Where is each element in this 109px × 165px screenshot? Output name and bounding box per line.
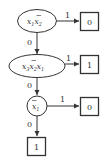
svg-text:x3x2x1: x3x2x1 (22, 62, 44, 72)
edge-label-n1-l1: 1 (65, 11, 70, 20)
bdd-diagram: 1 0 1 0 1 0 x1x2 x3x2x1 x1 0 1 (0, 0, 109, 165)
leaf-l4: 1 (28, 138, 46, 156)
leaf-l3: 0 (81, 98, 99, 116)
node-n1: x1x2 (18, 10, 57, 33)
edge-label-n2-n3: 0 (27, 81, 32, 90)
node-n2: x3x2x1 (9, 55, 65, 78)
edge-label-n3-l4: 0 (27, 120, 32, 129)
svg-text:1: 1 (34, 143, 39, 152)
svg-text:1: 1 (87, 61, 92, 70)
edge-label-n1-n2: 0 (27, 38, 32, 47)
node-n3: x1 (27, 96, 47, 116)
svg-text:0: 0 (87, 18, 92, 27)
edge-label-n2-l2: 1 (66, 54, 71, 63)
svg-text:0: 0 (87, 103, 92, 112)
edge-label-n3-l3: 1 (60, 95, 65, 104)
leaf-l2: 1 (81, 56, 99, 74)
leaf-l1: 0 (81, 13, 99, 31)
